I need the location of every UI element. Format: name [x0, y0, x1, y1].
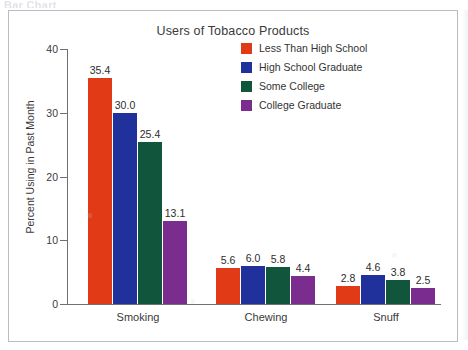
bar: [361, 275, 385, 304]
legend-item: High School Graduate: [241, 59, 367, 75]
bar-value-label: 35.4: [78, 64, 122, 76]
bar-value-label: 30.0: [103, 99, 147, 111]
bar-value-label: 25.4: [128, 128, 172, 140]
y-axis-tick: [60, 240, 68, 241]
legend-swatch-icon: [241, 81, 252, 92]
legend-item-label: College Graduate: [259, 99, 341, 111]
bar: [291, 276, 315, 304]
chart-title: Users of Tobacco Products: [9, 24, 457, 38]
page-header-ghost: Bar Chart: [4, 0, 100, 8]
chart-figure: Users of Tobacco Products Percent Using …: [8, 10, 458, 342]
y-axis-tick-label: 40: [12, 43, 58, 55]
legend-swatch-icon: [241, 43, 252, 54]
bar-value-label: 2.5: [401, 274, 445, 286]
y-axis-tick: [60, 49, 68, 50]
bar: [88, 78, 112, 304]
bar: [216, 268, 240, 304]
bar-value-label: 13.1: [153, 207, 197, 219]
y-axis-tick-label: 10: [12, 234, 58, 246]
x-axis-line: [67, 304, 441, 305]
y-axis-tick-label: 30: [12, 107, 58, 119]
bar: [138, 142, 162, 304]
legend-item: Some College: [241, 78, 367, 94]
bar: [163, 221, 187, 305]
bar: [113, 113, 137, 304]
bar-group: 35.430.025.413.1: [88, 49, 188, 304]
legend-swatch-icon: [241, 62, 252, 73]
legend-item: Less Than High School: [241, 40, 367, 56]
x-axis-category-label: Chewing: [201, 311, 331, 323]
x-axis-category-label: Snuff: [321, 311, 451, 323]
legend-item-label: Some College: [259, 80, 325, 92]
legend-swatch-icon: [241, 100, 252, 111]
bar: [411, 288, 435, 304]
legend-item-label: High School Graduate: [259, 61, 362, 73]
y-axis-tick: [60, 177, 68, 178]
legend-item: College Graduate: [241, 97, 367, 113]
y-axis-tick: [60, 304, 68, 305]
y-axis-tick: [60, 113, 68, 114]
y-axis-tick-label: 20: [12, 171, 58, 183]
x-axis-category-label: Smoking: [73, 311, 203, 323]
legend-item-label: Less Than High School: [259, 42, 367, 54]
bar: [336, 286, 360, 304]
page-edge-sliver: [462, 10, 468, 340]
bar-value-label: 4.4: [281, 262, 325, 274]
bar: [241, 266, 265, 304]
y-axis-tick-label: 0: [12, 298, 58, 310]
chart-legend: Less Than High SchoolHigh School Graduat…: [241, 40, 367, 116]
